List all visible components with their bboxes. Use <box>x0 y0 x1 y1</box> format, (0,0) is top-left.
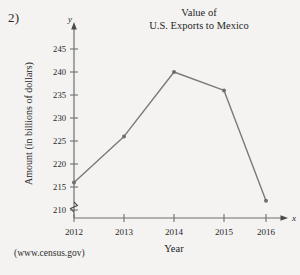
x-axis-symbol: x <box>291 213 296 223</box>
x-axis-arrow-icon <box>281 215 289 221</box>
data-point-2016 <box>264 199 268 203</box>
x-tick-label-2016: 2016 <box>257 227 276 237</box>
x-tick-label-2015: 2015 <box>215 227 234 237</box>
x-tick-label-2013: 2013 <box>115 227 134 237</box>
y-tick-label-210: 210 <box>53 205 66 215</box>
y-tick-label-215: 215 <box>53 182 66 192</box>
chart-figure: Value of U.S. Exports to Mexico Amount (… <box>0 0 300 275</box>
data-point-2015 <box>222 88 226 92</box>
y-axis-arrow-icon <box>71 22 77 30</box>
y-tick-label-245: 245 <box>53 44 66 54</box>
y-tick-label-235: 235 <box>53 90 66 100</box>
y-tick-label-230: 230 <box>53 113 66 123</box>
data-point-2013 <box>122 134 126 138</box>
x-tick-label-2014: 2014 <box>165 227 184 237</box>
y-tick-label-240: 240 <box>53 67 66 77</box>
y-tick-label-220: 220 <box>53 159 66 169</box>
y-tick-label-225: 225 <box>53 136 66 146</box>
x-tick-label-2012: 2012 <box>65 227 83 237</box>
source-citation: (www.census.gov) <box>14 248 85 258</box>
plot-area: y x 245 240 235 230 225 220 215 210 201 <box>0 0 300 275</box>
worksheet-page: 2) Value of U.S. Exports to Mexico Amoun… <box>0 0 300 275</box>
series-line-us-exports <box>74 72 266 201</box>
y-axis-symbol: y <box>67 14 72 24</box>
data-point-2014 <box>172 70 176 74</box>
data-point-2012 <box>72 180 76 184</box>
x-axis-title: Year <box>164 243 184 254</box>
